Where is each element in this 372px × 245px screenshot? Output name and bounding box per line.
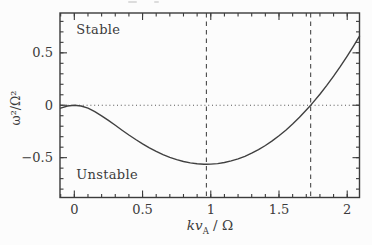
svg-text:0: 0 (45, 98, 53, 113)
dispersion-relation-figure: 00.511.52−0.500.5 Stable Unstable ω²/Ω² … (0, 0, 372, 245)
svg-text:0.5: 0.5 (132, 202, 153, 217)
svg-text:0: 0 (70, 202, 78, 217)
svg-text:0.5: 0.5 (32, 45, 53, 60)
svg-text:2: 2 (343, 202, 351, 217)
y-axis-title: ω²/Ω² (8, 67, 24, 149)
tick-labels: 00.511.52−0.500.5 (21, 45, 351, 217)
svg-text:1: 1 (207, 202, 215, 217)
stable-region-label: Stable (76, 21, 120, 36)
plot-canvas: 00.511.52−0.500.5 (0, 0, 372, 245)
x-axis-title-rest: / Ω (209, 217, 233, 233)
svg-text:−0.5: −0.5 (21, 150, 53, 165)
dispersion-curve (61, 36, 360, 164)
unstable-region-label: Unstable (76, 167, 138, 182)
svg-text:1.5: 1.5 (269, 202, 290, 217)
x-axis-title: kvA / Ω (145, 217, 275, 236)
x-axis-title-kv: kv (187, 217, 203, 233)
